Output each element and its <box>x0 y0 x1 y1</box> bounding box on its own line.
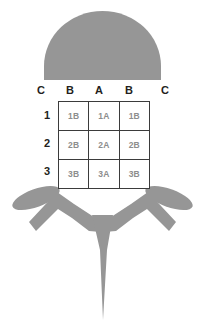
cell-2A[interactable]: 2A <box>89 131 119 160</box>
cell-1A[interactable]: 1A <box>89 102 119 131</box>
table-row: 1B 1A 1B <box>59 102 150 131</box>
phage-grid-figure: C B A B C 1 2 3 1B 1A 1B 2B 2A 2B 3B 3A … <box>0 0 205 332</box>
column-header-outer-right: C <box>157 83 173 97</box>
table-row: 2B 2A 2B <box>59 131 150 160</box>
cell-2B-left[interactable]: 2B <box>59 131 89 160</box>
row-header-2: 2 <box>40 136 54 150</box>
column-header-inner-left: B <box>62 83 78 97</box>
row-header-1: 1 <box>40 108 54 122</box>
cell-3B-right[interactable]: 3B <box>119 160 149 189</box>
column-header-inner-right: B <box>121 83 137 97</box>
cell-1B-left[interactable]: 1B <box>59 102 89 131</box>
row-header-3: 3 <box>40 164 54 178</box>
cell-3B-left[interactable]: 3B <box>59 160 89 189</box>
cell-3A[interactable]: 3A <box>89 160 119 189</box>
table-row: 3B 3A 3B <box>59 160 150 189</box>
phage-head-dome <box>44 11 161 80</box>
zone-grid-table: 1B 1A 1B 2B 2A 2B 3B 3A 3B <box>58 101 150 189</box>
cell-2B-right[interactable]: 2B <box>119 131 149 160</box>
cell-1B-right[interactable]: 1B <box>119 102 149 131</box>
column-header-outer-left: C <box>33 83 49 97</box>
column-header-row: C B A B C <box>0 83 205 98</box>
column-header-center: A <box>91 83 107 97</box>
